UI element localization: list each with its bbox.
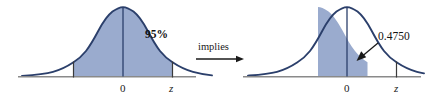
left-axis-label-z: z	[168, 82, 174, 94]
right-area-value-label: 0.4750	[378, 30, 410, 42]
implies-arrow-head	[236, 56, 244, 62]
right-panel-group: 0.4750 0 z	[243, 7, 424, 94]
figure-canvas: 95% 0 z implies	[0, 0, 425, 104]
right-axis-label-zero: 0	[344, 82, 350, 94]
right-shaded-area	[318, 7, 368, 76]
implies-label: implies	[198, 41, 229, 52]
left-area-percentage-label: 95%	[145, 28, 168, 40]
right-axis-label-z: z	[393, 82, 399, 94]
implies-connector-group: implies	[196, 41, 244, 62]
left-axis-label-zero: 0	[120, 82, 126, 94]
left-panel-group: 95% 0 z	[18, 7, 212, 94]
normal-curve-implication-figure: 95% 0 z implies	[0, 0, 425, 104]
